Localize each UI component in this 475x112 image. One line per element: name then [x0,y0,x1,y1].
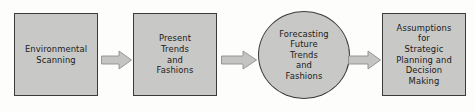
node-assumptions-for-strategic-planning-and-decision-making[interactable]: Assumptions for Strategic Planning and D… [382,13,466,96]
right-arrow-icon [221,50,257,70]
right-arrow-icon [348,50,381,70]
process-flow-diagram: Environmental Scanning Present Trends an… [0,0,475,112]
node-label-assumptions-for-strategic-planning-and-decision-making: Assumptions for Strategic Planning and D… [396,23,452,87]
arrow-present-trends-to-forecasting [221,50,257,70]
arrow-forecasting-to-assumptions [348,50,381,70]
arrow-environmental-scanning-to-present-trends [101,50,132,70]
right-arrow-icon [101,50,132,70]
node-forecasting-future-trends-and-fashions[interactable]: Forecasting Future Trends and Fashions [258,11,350,99]
node-label-forecasting-future-trends-and-fashions: Forecasting Future Trends and Fashions [279,29,329,82]
node-label-present-trends-and-fashions: Present Trends and Fashions [157,33,194,75]
node-present-trends-and-fashions[interactable]: Present Trends and Fashions [133,13,217,96]
node-label-environmental-scanning: Environmental Scanning [25,44,87,65]
node-environmental-scanning[interactable]: Environmental Scanning [14,13,98,96]
